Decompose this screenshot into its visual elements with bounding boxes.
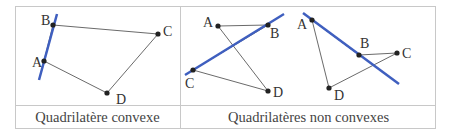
label-d: D [116, 92, 126, 107]
label-c: C [402, 46, 411, 61]
label-a: A [203, 15, 214, 30]
convex-figure: B C D A [32, 13, 172, 107]
label-b: B [360, 36, 369, 51]
non-convex-figure-1: A B C D [185, 14, 284, 100]
label-d: D [334, 88, 344, 103]
caption-non-convex: Quadrilatères non convexes [181, 106, 436, 129]
label-c: C [163, 24, 172, 39]
supporting-line [303, 13, 399, 84]
label-a: A [32, 55, 43, 70]
caption-convex: Quadrilatère convexe [15, 106, 180, 129]
label-b: B [270, 26, 279, 41]
non-convex-figure-2: A B C D [297, 13, 411, 103]
label-d: D [273, 85, 283, 100]
label-b: B [41, 13, 50, 28]
label-a: A [297, 17, 308, 32]
label-c: C [185, 76, 194, 91]
